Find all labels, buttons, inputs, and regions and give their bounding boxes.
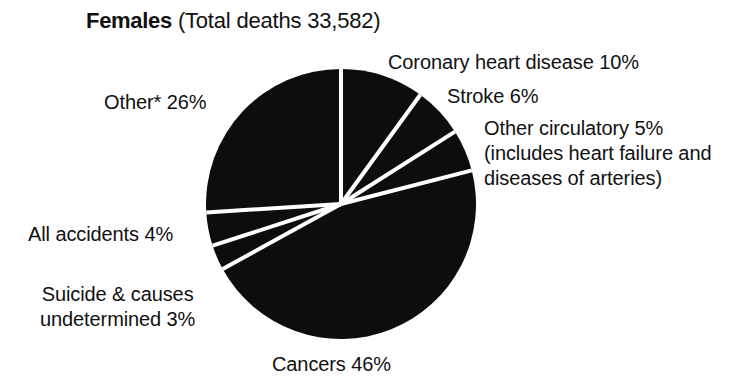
slice-label-suicide-and-causes-undetermined: Suicide & causes undetermined 3%: [40, 282, 195, 332]
slice-label-other: Other* 26%: [104, 90, 206, 114]
slice-label-cancers: Cancers 46%: [272, 352, 391, 376]
slice-label-suicide-line2: undetermined 3%: [40, 307, 195, 332]
slice-label-stroke: Stroke 6%: [447, 84, 538, 108]
pie-chart-figure: Females (Total deaths 33,582) Coronary h…: [0, 0, 749, 388]
slice-label-coronary-heart-disease: Coronary heart disease 10%: [388, 50, 639, 74]
slice-label-other-circulatory-line1: Other circulatory 5%: [484, 116, 711, 141]
slice-label-other-circulatory-line2: (includes heart failure and: [484, 141, 711, 166]
slice-label-other-circulatory-line3: diseases of arteries): [484, 166, 711, 191]
slice-label-suicide-line1: Suicide & causes: [40, 282, 195, 307]
slice-label-other-circulatory: Other circulatory 5% (includes heart fai…: [484, 116, 711, 191]
pie-slice: [206, 69, 341, 212]
slice-label-all-accidents: All accidents 4%: [28, 222, 173, 246]
